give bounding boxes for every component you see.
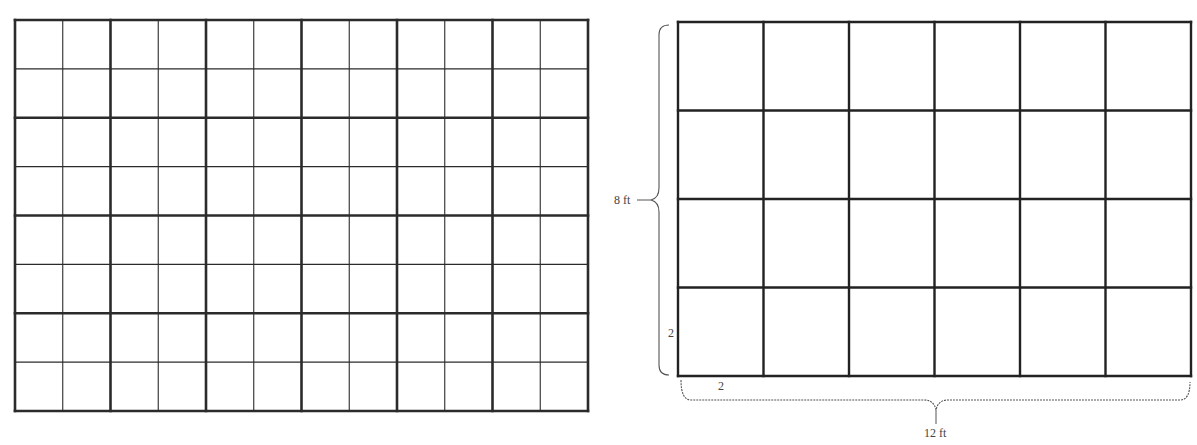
cell-height-label: 2 <box>668 326 674 340</box>
width-label: 12 ft <box>924 426 947 440</box>
height-brace <box>651 25 669 375</box>
cell-width-label: 2 <box>718 379 724 393</box>
left-grid-fine <box>15 20 588 411</box>
width-brace <box>681 380 1190 410</box>
height-label: 8 ft <box>614 193 631 207</box>
diagram-canvas: 8 ft 12 ft 2 2 <box>0 0 1197 445</box>
right-grid-coarse <box>678 22 1191 376</box>
